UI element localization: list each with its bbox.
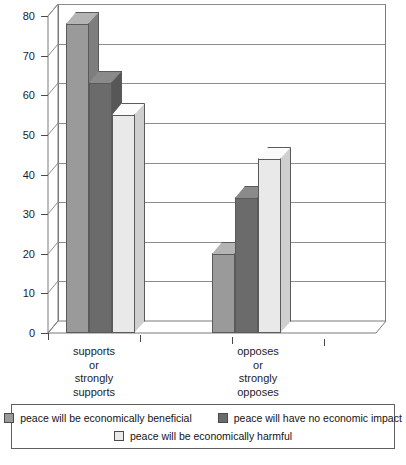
bar-chart-figure: 80 70 60 50 40 30 20 10 0 <box>0 0 406 465</box>
category-label-line: supports <box>34 345 154 359</box>
ytick-label-70: 70 <box>9 51 35 62</box>
category-label-supports: supports or strongly supports <box>34 345 154 399</box>
legend-entry-beneficial: peace will be economically beneficial <box>4 412 192 424</box>
ytick-label-60: 60 <box>9 90 35 101</box>
category-label-line: opposes <box>198 345 318 359</box>
legend-swatch-no-impact <box>218 413 228 423</box>
category-label-line: or <box>34 359 154 373</box>
ytick-mark-0 <box>41 333 48 334</box>
legend-label-beneficial: peace will be economically beneficial <box>20 412 192 424</box>
ytick-mark-70 <box>41 56 48 57</box>
bar-front-face <box>66 24 89 333</box>
ytick-label-0: 0 <box>9 328 35 339</box>
plot-area: 80 70 60 50 40 30 20 10 0 <box>0 0 406 400</box>
bar-front-face <box>89 83 112 333</box>
category-label-line: supports <box>34 386 154 400</box>
bar-side-face <box>280 147 291 333</box>
bar-front-face <box>258 159 281 333</box>
chart-legend: peace will be economically beneficial pe… <box>11 404 395 449</box>
category-label-opposes: opposes or strongly opposes <box>198 345 318 399</box>
legend-row-1: peace will be economically beneficial pe… <box>12 412 394 424</box>
bar-opposes-beneficial <box>212 254 235 333</box>
ytick-mark-50 <box>41 135 48 136</box>
gridline-depth-connectors <box>0 0 406 400</box>
bar-opposes-no-impact <box>235 198 258 333</box>
bar-supports-harmful <box>112 115 135 333</box>
legend-swatch-beneficial <box>4 413 14 423</box>
bar-front-face <box>112 115 135 333</box>
legend-swatch-harmful <box>114 431 124 441</box>
category-label-line: strongly <box>34 372 154 386</box>
bar-supports-no-impact <box>89 83 112 333</box>
ytick-mark-40 <box>41 175 48 176</box>
bar-opposes-harmful <box>258 159 281 333</box>
ytick-mark-20 <box>41 254 48 255</box>
ytick-mark-60 <box>41 95 48 96</box>
ytick-mark-30 <box>41 214 48 215</box>
bar-front-face <box>212 254 235 333</box>
category-label-line: opposes <box>198 386 318 400</box>
bar-side-face <box>134 103 145 333</box>
xtick-mark-3 <box>324 339 325 346</box>
legend-entry-harmful: peace will be economically harmful <box>114 430 292 442</box>
xtick-mark-0 <box>48 333 49 340</box>
legend-entry-no-impact: peace will have no economic impact <box>218 412 402 424</box>
legend-label-no-impact: peace will have no economic impact <box>234 412 402 424</box>
category-label-line: or <box>198 359 318 373</box>
legend-label-harmful: peace will be economically harmful <box>130 430 292 442</box>
ytick-mark-80 <box>41 16 48 17</box>
bar-front-face <box>235 198 258 333</box>
ytick-label-10: 10 <box>9 288 35 299</box>
ytick-label-80: 80 <box>9 11 35 22</box>
ytick-label-30: 30 <box>9 209 35 220</box>
xtick-mark-2 <box>232 337 233 344</box>
xtick-mark-1 <box>140 335 141 342</box>
ytick-label-20: 20 <box>9 249 35 260</box>
ytick-label-40: 40 <box>9 170 35 181</box>
ytick-label-50: 50 <box>9 130 35 141</box>
ytick-mark-10 <box>41 293 48 294</box>
bar-supports-beneficial <box>66 24 89 333</box>
legend-row-2: peace will be economically harmful <box>12 430 394 442</box>
category-label-line: strongly <box>198 372 318 386</box>
